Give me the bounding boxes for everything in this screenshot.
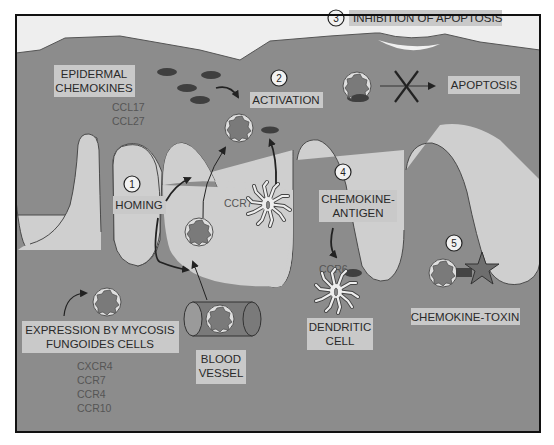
dendritic-label-1: DENDRITIC: [309, 321, 372, 333]
expression-label-2: FUNGOIDES CELLS: [46, 338, 154, 350]
step-5-number: 5: [451, 238, 457, 249]
diagram-canvas: 3 INHIBITION OF APOPTOSIS EPIDERMAL CHEM…: [0, 0, 554, 445]
receptor-cxcr4: CXCR4: [77, 360, 113, 372]
step-2-label: ACTIVATION: [252, 94, 319, 106]
step-4-label-2: ANTIGEN: [332, 207, 383, 219]
apoptosis-label: APOPTOSIS: [451, 79, 518, 91]
mf-cell-dermis-icon: [185, 218, 213, 246]
mf-cell-toxin-icon: [429, 259, 457, 287]
step-5-label: CHEMOKINE-TOXIN: [411, 311, 519, 323]
step-5: 5: [446, 235, 462, 251]
step-1-label: HOMING: [115, 199, 162, 211]
receptor-ccr10: CCR10: [77, 402, 112, 414]
mf-cell-activated-icon: [225, 114, 253, 142]
dendritic-label-2: CELL: [326, 335, 355, 347]
chemokine-ccl27: CCL27: [112, 115, 145, 127]
receptor-ccr4: CCR4: [77, 388, 106, 400]
step-1-number: 1: [129, 179, 135, 190]
step-3-label: INHIBITION OF APOPTOSIS: [353, 12, 503, 24]
step-4-label-1: CHEMOKINE-: [321, 193, 395, 205]
blood-vessel-label-1: BLOOD: [201, 353, 241, 365]
receptor-ccr7: CCR7: [77, 374, 106, 386]
chemokine-ccl17: CCL17: [112, 101, 145, 113]
blood-vessel-label-2: VESSEL: [199, 367, 244, 379]
step-3: 3 INHIBITION OF APOPTOSIS: [328, 10, 503, 26]
epidermal-label-1: EPIDERMAL: [61, 68, 128, 80]
epidermal-label-2: CHEMOKINES: [55, 82, 133, 94]
step-4-number: 4: [340, 167, 346, 178]
expression-label-1: EXPRESSION BY MYCOSIS: [25, 324, 175, 336]
step-2-number: 2: [276, 73, 282, 84]
mf-cell-vessel-icon: [206, 305, 234, 333]
mf-cell-expression-icon: [93, 288, 121, 316]
chemokine-link: [456, 268, 472, 277]
